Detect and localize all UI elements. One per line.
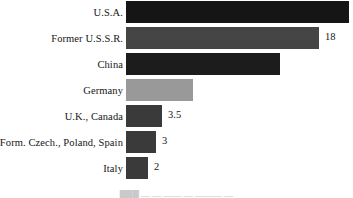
bar-row: China — [0, 52, 353, 77]
bar-usa — [126, 1, 349, 23]
category-label: Former U.S.S.R. — [0, 33, 123, 45]
bar-track — [126, 79, 193, 101]
bar-chart: U.S.A. Former U.S.S.R. 18 China Germany — [0, 0, 353, 198]
category-label: Germany — [0, 85, 123, 97]
bar-former-ussr — [126, 27, 319, 49]
category-label: Italy — [0, 163, 123, 175]
value-label: 3.5 — [168, 109, 181, 121]
bar-track — [126, 27, 319, 49]
bar-uk-canada — [126, 105, 162, 127]
bar-row: Germany — [0, 78, 353, 103]
bar-italy — [126, 157, 148, 179]
bar-row: U.K., Canada 3.5 — [0, 104, 353, 129]
cropped-caption: ███ — — —— — ——— — — [0, 190, 353, 198]
bar-track — [126, 105, 162, 127]
bar-row: Former U.S.S.R. 18 — [0, 26, 353, 51]
bar-china — [126, 53, 280, 75]
bar-track — [126, 1, 349, 23]
value-label: 3 — [162, 135, 167, 147]
value-label: 18 — [325, 31, 336, 43]
bar-track — [126, 53, 280, 75]
bar-row: U.S.A. — [0, 0, 353, 25]
value-label: 2 — [154, 161, 159, 173]
category-label: Form. Czech., Poland, Spain — [0, 137, 123, 149]
bar-track — [126, 157, 148, 179]
category-label: U.K., Canada — [0, 111, 123, 123]
category-label: U.S.A. — [0, 7, 123, 19]
bar-row: Form. Czech., Poland, Spain 3 — [0, 130, 353, 155]
plot-area: U.S.A. Former U.S.S.R. 18 China Germany — [0, 0, 353, 182]
category-label: China — [0, 59, 123, 71]
bar-germany — [126, 79, 193, 101]
bar-row: Italy 2 — [0, 156, 353, 181]
bar-czech-poland-spain — [126, 131, 156, 153]
bar-track — [126, 131, 156, 153]
